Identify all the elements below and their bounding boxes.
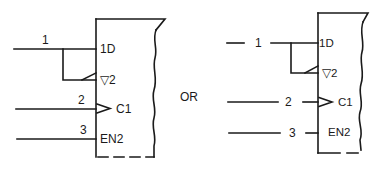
left-clock-triangle-icon (97, 104, 110, 113)
right-box-torn-edge (359, 22, 363, 150)
right-qualifier-3state-output: ▽2 (322, 67, 337, 79)
right-qualifier-en2: EN2 (328, 126, 350, 138)
right-symbol: 1 1D ▽2 2 C1 3 EN2 (227, 13, 368, 153)
right-qualifier-1d: 1D (319, 37, 334, 49)
left-box-torn-edge (153, 30, 156, 157)
left-qualifier-1d: 1D (100, 42, 116, 56)
left-output-diagonal (82, 73, 96, 80)
right-clock-triangle-icon (319, 98, 332, 107)
left-qualifier-3state-output: ▽2 (100, 73, 116, 87)
left-pin-3-label: 3 (80, 123, 87, 137)
left-pin-1-label: 1 (42, 33, 49, 47)
right-pin-3-label: 3 (289, 126, 296, 140)
or-separator-label: OR (180, 90, 198, 104)
left-symbol: 1 1D ▽2 2 C1 3 EN2 (14, 19, 165, 157)
left-box-top-edge (96, 19, 165, 30)
right-output-diagonal (305, 66, 318, 73)
right-qualifier-c1: C1 (338, 96, 353, 108)
diagram-canvas: 1 1D ▽2 2 C1 3 EN2 OR 1 1D ▽2 2 (0, 0, 379, 169)
right-pin-1-label: 1 (255, 36, 262, 50)
right-box-top-edge (318, 13, 368, 22)
left-qualifier-en2: EN2 (100, 132, 124, 146)
right-pin-2-label: 2 (285, 95, 292, 109)
left-pin-2-label: 2 (78, 93, 85, 107)
left-qualifier-c1: C1 (116, 102, 132, 116)
